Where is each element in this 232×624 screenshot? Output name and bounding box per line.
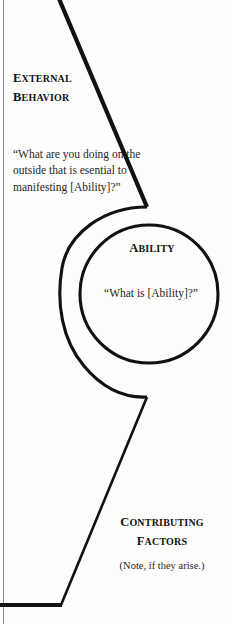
ability-heading: ABILITY bbox=[100, 238, 204, 257]
heading-initial: F bbox=[137, 534, 145, 548]
external-behavior-heading-line2: BEHAVIOR bbox=[13, 87, 123, 106]
contributing-factors-heading: CONTRIBUTING FACTORS bbox=[100, 512, 224, 550]
external-behavior-heading: EXTERNAL BEHAVIOR bbox=[13, 68, 123, 106]
outer-spiral-arc bbox=[60, 207, 147, 397]
heading-remainder: EHAVIOR bbox=[22, 92, 70, 103]
heading-initial: C bbox=[120, 515, 129, 529]
heading-initial: A bbox=[129, 241, 138, 255]
ability-question: “What is [Ability]?” bbox=[86, 285, 216, 301]
contributing-factors-heading-line1: CONTRIBUTING bbox=[100, 512, 224, 531]
heading-initial: B bbox=[13, 90, 22, 104]
external-behavior-heading-line1: EXTERNAL bbox=[13, 68, 123, 87]
external-behavior-question: “What are you doing on the outside that … bbox=[13, 146, 145, 195]
heading-remainder: BILITY bbox=[139, 243, 175, 254]
heading-remainder: ACTORS bbox=[145, 536, 188, 547]
contributing-factors-heading-line2: FACTORS bbox=[100, 531, 224, 550]
heading-initial: E bbox=[13, 71, 22, 85]
contributing-factors-note: (Note, if they arise.) bbox=[96, 560, 228, 572]
heading-remainder: ONTRIBUTING bbox=[129, 517, 203, 528]
heading-remainder: XTERNAL bbox=[22, 73, 72, 84]
contributing-factors-stroke bbox=[61, 397, 147, 605]
diagram-page: EXTERNAL BEHAVIOR “What are you doing on… bbox=[0, 0, 232, 624]
